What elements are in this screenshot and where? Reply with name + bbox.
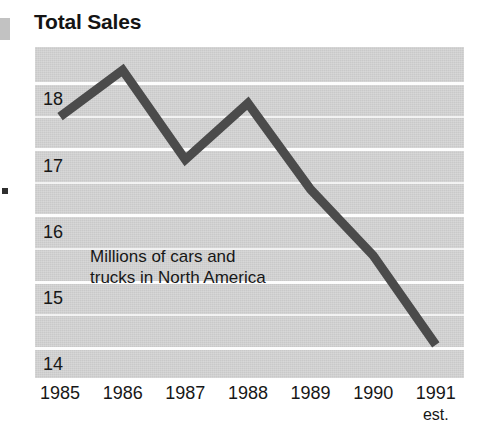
- x-tick-year: 1990: [353, 383, 393, 403]
- x-tick-label-1988: 1988: [228, 383, 268, 404]
- x-tick-label-1985: 1985: [40, 383, 80, 404]
- chart-title: Total Sales: [34, 10, 141, 34]
- x-tick-label-1991: 1991est.: [416, 383, 456, 424]
- x-tick-label-1990: 1990: [353, 383, 393, 404]
- x-tick-label-1986: 1986: [103, 383, 143, 404]
- x-axis-tick-labels: 1985198619871988198919901991est.: [35, 383, 464, 435]
- x-tick-label-1987: 1987: [165, 383, 205, 404]
- data-series-total-sales: [35, 47, 464, 378]
- x-tick-year: 1989: [291, 383, 331, 403]
- x-tick-label-1989: 1989: [291, 383, 331, 404]
- plot-area: 1817161514 Millions of cars and trucks i…: [35, 47, 464, 378]
- data-line-path: [60, 70, 436, 345]
- x-tick-year: 1991: [416, 383, 456, 403]
- scan-artifact-bullet-icon: [2, 188, 8, 194]
- x-tick-year: 1987: [165, 383, 205, 403]
- scan-artifact-top-icon: [0, 18, 10, 40]
- x-tick-sublabel: est.: [416, 406, 456, 424]
- x-tick-year: 1985: [40, 383, 80, 403]
- x-tick-year: 1988: [228, 383, 268, 403]
- chart-figure: Total Sales 1817161514 Millions of cars …: [0, 0, 487, 438]
- x-tick-year: 1986: [103, 383, 143, 403]
